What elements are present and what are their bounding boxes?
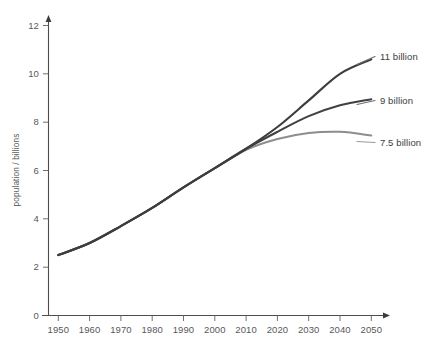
y-tick-label-4: 4 bbox=[34, 213, 39, 224]
series-line-low bbox=[58, 132, 371, 255]
x-tick-label-2010: 2010 bbox=[235, 324, 257, 335]
leader-line-low bbox=[357, 142, 375, 143]
y-tick-label-8: 8 bbox=[34, 116, 39, 127]
x-tick-label-2000: 2000 bbox=[204, 324, 226, 335]
y-axis-arrowhead bbox=[46, 15, 52, 22]
x-axis-arrowhead bbox=[383, 313, 390, 319]
series-group bbox=[58, 59, 371, 255]
y-tick-label-10: 10 bbox=[28, 68, 39, 79]
series-label-high: 11 billion bbox=[380, 51, 418, 62]
chart-canvas: 0 2 4 6 8 10 12 population / billions 19… bbox=[0, 0, 426, 352]
x-tick-label-2050: 2050 bbox=[361, 324, 383, 335]
x-tick-label-2030: 2030 bbox=[298, 324, 320, 335]
x-tick-label-2020: 2020 bbox=[267, 324, 289, 335]
x-tick-label-1970: 1970 bbox=[110, 324, 132, 335]
series-label-medium: 9 billion bbox=[380, 95, 413, 106]
x-tick-label-1990: 1990 bbox=[173, 324, 195, 335]
population-projection-chart: 0 2 4 6 8 10 12 population / billions 19… bbox=[0, 0, 426, 352]
y-tick-label-12: 12 bbox=[28, 20, 39, 31]
y-tick-label-0: 0 bbox=[34, 310, 39, 321]
y-axis-title: population / billions bbox=[12, 134, 21, 207]
x-axis: 1950 1960 1970 1980 1990 2000 2010 2020 … bbox=[42, 313, 390, 335]
y-axis: 0 2 4 6 8 10 12 population / billions bbox=[12, 15, 51, 321]
series-line-high bbox=[58, 59, 371, 255]
series-line-medium bbox=[58, 99, 371, 255]
x-tick-label-1950: 1950 bbox=[48, 324, 70, 335]
y-tick-label-2: 2 bbox=[34, 261, 39, 272]
leader-line-high bbox=[357, 57, 375, 65]
x-tick-label-1980: 1980 bbox=[141, 324, 163, 335]
series-label-low: 7.5 billion bbox=[380, 137, 421, 148]
x-tick-label-1960: 1960 bbox=[79, 324, 101, 335]
y-tick-label-6: 6 bbox=[34, 165, 39, 176]
x-tick-label-2040: 2040 bbox=[329, 324, 351, 335]
